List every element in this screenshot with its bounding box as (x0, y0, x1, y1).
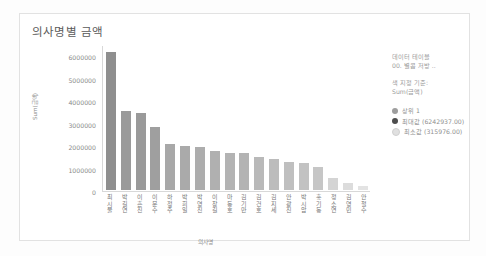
x-axis-title: 의사명 (198, 237, 213, 246)
x-tick-label: 김영민 (344, 194, 354, 236)
legend-label: 상위 1 (402, 106, 420, 115)
legend-label: 최대값 (6242937.00) (402, 117, 464, 126)
x-tick-label: 김기만 (239, 194, 249, 236)
bar[interactable] (254, 157, 264, 190)
y-tick-label: 2000000 (68, 144, 96, 151)
x-tick-label: 박영진 (195, 194, 205, 236)
y-tick-label: 4000000 (68, 99, 96, 106)
bar[interactable] (358, 186, 368, 190)
bar[interactable] (284, 162, 294, 190)
x-axis-labels: 최시물박길연이흔진이문수하정주박희일박영진이창길마동호김기만김건호김지세안광진박… (103, 194, 371, 236)
side-panel: 데이터 테이블00. 별콤 저방 .. 색 지정 기준:Sum(금액) 상위 1… (392, 52, 486, 137)
y-tick-label: 6000000 (68, 54, 96, 61)
legend-item[interactable]: 최대값 (6242937.00) (392, 116, 486, 127)
bar[interactable] (328, 178, 338, 190)
x-tick-label: 안철수 (359, 194, 369, 236)
bar[interactable] (180, 146, 190, 190)
bar-chart: Sum(금액) 60000005000000400000030000002000… (28, 46, 378, 236)
x-tick-label: 하정주 (165, 194, 175, 236)
legend-item[interactable]: 상위 1 (392, 106, 486, 117)
x-tick-label: 박시암 (299, 194, 309, 236)
chart-legend: 상위 1최대값 (6242937.00)최소값 (315976.00) (392, 106, 486, 138)
legend-swatch-icon (392, 118, 398, 124)
page-title: 의사명별 금액 (32, 23, 103, 39)
y-tick-label: 3000000 (68, 121, 96, 128)
bar[interactable] (269, 159, 279, 190)
x-tick-label: 홍기동 (314, 194, 324, 236)
legend-swatch-icon (392, 128, 400, 136)
y-tick-label: 5000000 (68, 76, 96, 83)
color-basis-line: Sum(금액) (392, 87, 486, 96)
color-basis-caption: 색 지정 기준:Sum(금액) (392, 78, 486, 97)
legend-label: 최소값 (315976.00) (404, 127, 462, 136)
data-table-caption: 데이터 테이블00. 별콤 저방 .. (392, 52, 486, 71)
bar[interactable] (195, 147, 205, 190)
y-axis-ticks: 6000000500000040000003000000200000010000… (48, 46, 100, 192)
bar-series (104, 46, 370, 190)
side-panel-line: 00. 별콤 저방 .. (392, 61, 486, 70)
bar[interactable] (239, 153, 249, 190)
legend-item[interactable]: 최소값 (315976.00) (392, 127, 486, 138)
bar[interactable] (136, 113, 146, 190)
color-basis-line: 색 지정 기준: (392, 78, 486, 87)
x-tick-label: 김지세 (269, 194, 279, 236)
chart-card: 의사명별 금액 Sum(금액) 600000050000004000000300… (19, 13, 470, 241)
x-tick-label: 안광진 (284, 194, 294, 236)
x-tick-label: 정소연 (329, 194, 339, 236)
y-axis-title: Sum(금액) (31, 93, 39, 120)
bar[interactable] (121, 111, 131, 190)
x-tick-label: 박희일 (180, 194, 190, 236)
legend-swatch-icon (392, 108, 398, 114)
bar[interactable] (299, 163, 309, 190)
x-tick-label: 이창길 (210, 194, 220, 236)
x-tick-label: 김건호 (254, 194, 264, 236)
bar[interactable] (225, 153, 235, 190)
bar[interactable] (165, 144, 175, 190)
bar[interactable] (106, 52, 116, 190)
x-tick-label: 마동호 (225, 194, 235, 236)
plot-area (102, 46, 370, 192)
x-tick-label: 이문수 (150, 194, 160, 236)
bar[interactable] (343, 183, 353, 190)
y-tick-label: 0 (92, 189, 96, 196)
x-tick-label: 최시물 (105, 194, 115, 236)
side-panel-line: 데이터 테이블 (392, 52, 486, 61)
x-tick-label: 박길연 (120, 194, 130, 236)
y-tick-label: 1000000 (68, 166, 96, 173)
spacer (392, 71, 486, 78)
bar[interactable] (150, 127, 160, 190)
x-tick-label: 이흔진 (135, 194, 145, 236)
bar[interactable] (313, 167, 323, 190)
page-background: 의사명별 금액 Sum(금액) 600000050000004000000300… (0, 0, 486, 256)
bar[interactable] (210, 151, 220, 190)
